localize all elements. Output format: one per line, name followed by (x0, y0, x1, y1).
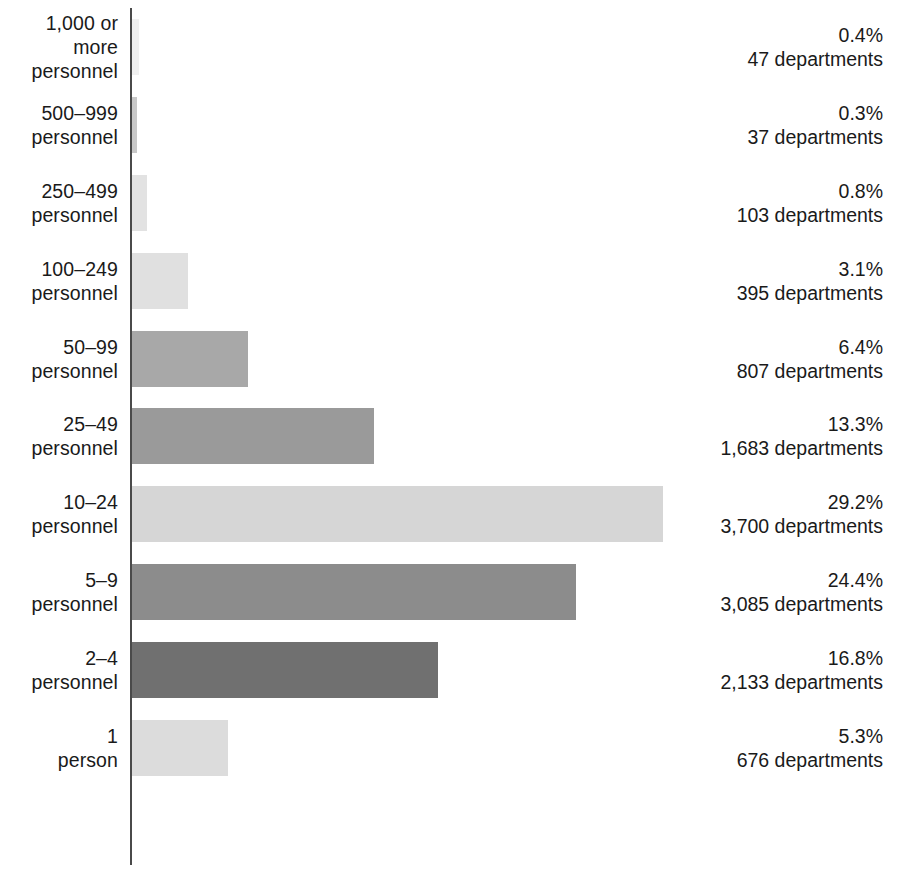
count-label: 807 departments (737, 359, 883, 383)
bar (132, 253, 188, 309)
bar-row: 10–24personnel29.2%3,700 departments (0, 475, 899, 553)
category-label-line1: 10–24 (0, 490, 118, 514)
value-labels: 3.1%395 departments (737, 257, 883, 305)
bar-rows-container: 1,000 or morepersonnel0.4%47 departments… (0, 8, 899, 865)
category-label-line1: 25–49 (0, 412, 118, 436)
percent-label: 13.3% (720, 412, 883, 436)
bar (132, 331, 248, 387)
bar-track (132, 253, 188, 309)
percent-label: 5.3% (737, 724, 883, 748)
bar (132, 642, 438, 698)
count-label: 37 departments (747, 125, 883, 149)
category-label-line2: personnel (0, 59, 118, 83)
category-label-line1: 1 (0, 724, 118, 748)
category-label-line1: 100–249 (0, 257, 118, 281)
value-labels: 0.8%103 departments (737, 179, 883, 227)
category-label: 25–49personnel (0, 412, 118, 460)
bar-track (132, 331, 248, 387)
bar (132, 175, 147, 231)
category-label: 5–9personnel (0, 568, 118, 616)
category-label-line2: personnel (0, 125, 118, 149)
category-label-line1: 50–99 (0, 335, 118, 359)
category-label: 2–4personnel (0, 646, 118, 694)
category-label: 250–499personnel (0, 179, 118, 227)
bar-row: 25–49personnel13.3%1,683 departments (0, 397, 899, 475)
value-labels: 0.3%37 departments (747, 101, 883, 149)
bar-track (132, 564, 576, 620)
bar (132, 486, 663, 542)
bar-row: 250–499personnel0.8%103 departments (0, 164, 899, 242)
category-label: 1person (0, 724, 118, 772)
percent-label: 0.4% (747, 23, 883, 47)
count-label: 1,683 departments (720, 436, 883, 460)
bar-row: 50–99personnel6.4%807 departments (0, 320, 899, 398)
percent-label: 24.4% (720, 568, 883, 592)
percent-label: 16.8% (720, 646, 883, 670)
bar-track (132, 720, 228, 776)
bar (132, 720, 228, 776)
value-labels: 16.8%2,133 departments (720, 646, 883, 694)
bar-track (132, 19, 139, 75)
value-labels: 5.3%676 departments (737, 724, 883, 772)
percent-label: 6.4% (737, 335, 883, 359)
percent-label: 0.8% (737, 179, 883, 203)
category-label-line1: 250–499 (0, 179, 118, 203)
bar-track (132, 642, 438, 698)
value-labels: 0.4%47 departments (747, 23, 883, 71)
count-label: 3,085 departments (720, 592, 883, 616)
count-label: 676 departments (737, 748, 883, 772)
bar (132, 408, 374, 464)
category-label-line1: 1,000 or more (0, 11, 118, 59)
bar-row: 100–249personnel3.1%395 departments (0, 242, 899, 320)
category-label-line2: person (0, 748, 118, 772)
bar-row: 5–9personnel24.4%3,085 departments (0, 553, 899, 631)
bar-track (132, 486, 663, 542)
category-label: 500–999personnel (0, 101, 118, 149)
category-label-line2: personnel (0, 436, 118, 460)
category-label-line1: 5–9 (0, 568, 118, 592)
category-label-line2: personnel (0, 670, 118, 694)
value-labels: 6.4%807 departments (737, 335, 883, 383)
category-label: 50–99personnel (0, 335, 118, 383)
category-label-line2: personnel (0, 359, 118, 383)
category-label-line1: 500–999 (0, 101, 118, 125)
category-label: 10–24personnel (0, 490, 118, 538)
percent-label: 29.2% (720, 490, 883, 514)
count-label: 47 departments (747, 47, 883, 71)
category-label-line1: 2–4 (0, 646, 118, 670)
count-label: 3,700 departments (720, 514, 883, 538)
percent-label: 0.3% (747, 101, 883, 125)
value-labels: 13.3%1,683 departments (720, 412, 883, 460)
count-label: 103 departments (737, 203, 883, 227)
category-label: 1,000 or morepersonnel (0, 11, 118, 83)
bar (132, 19, 139, 75)
bar (132, 97, 137, 153)
count-label: 2,133 departments (720, 670, 883, 694)
bar (132, 564, 576, 620)
bar-track (132, 175, 147, 231)
bar-track (132, 97, 137, 153)
bar-row: 2–4personnel16.8%2,133 departments (0, 631, 899, 709)
bar-row: 1,000 or morepersonnel0.4%47 departments (0, 8, 899, 86)
value-labels: 29.2%3,700 departments (720, 490, 883, 538)
value-labels: 24.4%3,085 departments (720, 568, 883, 616)
bar-track (132, 408, 374, 464)
category-label-line2: personnel (0, 592, 118, 616)
category-label: 100–249personnel (0, 257, 118, 305)
category-label-line2: personnel (0, 514, 118, 538)
category-label-line2: personnel (0, 281, 118, 305)
bar-chart: 1,000 or morepersonnel0.4%47 departments… (0, 0, 899, 882)
bar-row: 500–999personnel0.3%37 departments (0, 86, 899, 164)
count-label: 395 departments (737, 281, 883, 305)
percent-label: 3.1% (737, 257, 883, 281)
category-label-line2: personnel (0, 203, 118, 227)
bar-row: 1person5.3%676 departments (0, 709, 899, 787)
